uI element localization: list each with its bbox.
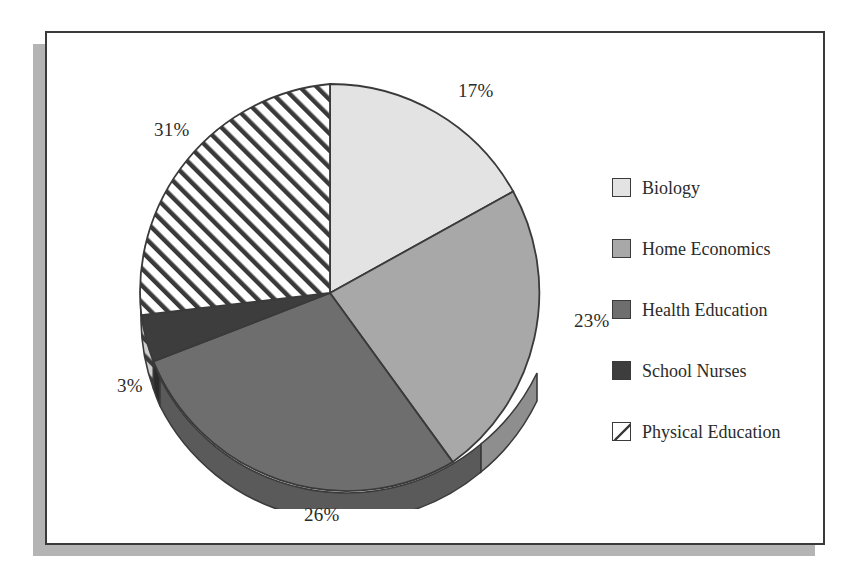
pie-chart: 17% 23% 26% 3% 31%	[96, 39, 566, 509]
pie-label-school-nurses: 3%	[117, 376, 143, 395]
legend-item-biology: Biology	[612, 157, 822, 218]
legend-swatch-school-nurses	[612, 361, 631, 380]
legend-label-home-economics: Home Economics	[642, 240, 770, 258]
chart-legend: Biology Home Economics Health Education …	[612, 157, 822, 462]
legend-item-school-nurses: School Nurses	[612, 340, 822, 401]
legend-swatch-physical-education	[612, 422, 631, 441]
pie-top-face	[140, 84, 539, 491]
legend-item-health-education: Health Education	[612, 279, 822, 340]
legend-item-home-economics: Home Economics	[612, 218, 822, 279]
legend-swatch-home-economics	[612, 239, 631, 258]
figure-panel: 17% 23% 26% 3% 31% Biology Home Economic…	[45, 31, 825, 545]
pie-label-home-economics: 23%	[574, 311, 609, 330]
pie-label-health-education: 26%	[304, 505, 339, 524]
pie-label-physical-education: 31%	[154, 120, 189, 139]
legend-swatch-health-education	[612, 300, 631, 319]
figure-root: 17% 23% 26% 3% 31% Biology Home Economic…	[0, 0, 864, 580]
legend-item-physical-education: Physical Education	[612, 401, 822, 462]
legend-label-school-nurses: School Nurses	[642, 362, 747, 380]
legend-swatch-biology	[612, 178, 631, 197]
pie-label-biology: 17%	[458, 81, 493, 100]
legend-label-biology: Biology	[642, 179, 700, 197]
legend-label-physical-education: Physical Education	[642, 423, 780, 441]
pie-chart-svg	[96, 39, 566, 509]
legend-label-health-education: Health Education	[642, 301, 767, 319]
